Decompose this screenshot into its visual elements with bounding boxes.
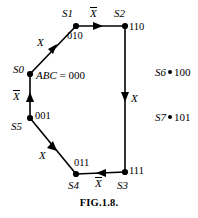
figure-caption: FIG.1.8. (0, 197, 198, 208)
edge-label-s3-s4-text: X (95, 177, 102, 189)
arrowhead-s3-s4 (96, 169, 106, 177)
unused-state-s6-dot (168, 70, 172, 74)
node-dot-s4 (73, 171, 79, 177)
arrowhead-s5-s4 (47, 141, 57, 151)
state-code-s5: 001 (35, 110, 51, 121)
assignment-value: 000 (69, 69, 86, 81)
state-code-s3: 111 (129, 165, 144, 176)
edge-label-s5-s0-text: X (13, 90, 20, 102)
edge-label-s5-s0: X (13, 90, 20, 102)
state-assignment-s0: ABC = 000 (36, 69, 85, 81)
state-code-s1: 010 (67, 30, 83, 41)
state-label-s3: S3 (117, 180, 128, 191)
state-code-s2: 110 (129, 21, 144, 32)
assignment-equals: = (57, 69, 69, 81)
state-label-s0: S0 (13, 64, 24, 75)
unused-state-s7: S7101 (155, 111, 191, 123)
node-dot-s1 (73, 23, 79, 29)
edge-label-s5-s4: X (39, 150, 46, 161)
state-transition-diagram: S0 S1 S2 S3 S4 S5 010 110 111 011 001 AB… (0, 0, 198, 218)
arrowhead-s2-s3 (121, 92, 129, 102)
edge-label-s1-s2: X (90, 7, 97, 19)
edge-label-s0-s1: X (37, 37, 44, 48)
edge-label-s1-s2-text: X (90, 7, 97, 19)
state-label-s1: S1 (62, 8, 73, 19)
node-dot-s0 (27, 71, 33, 77)
unused-state-s7-label: S7 (155, 111, 166, 123)
state-code-s4: 011 (74, 157, 89, 168)
node-dot-s2 (122, 23, 128, 29)
unused-state-s6-code: 100 (174, 66, 191, 78)
edge-label-s2-s3: X (131, 93, 138, 104)
unused-state-s7-dot (168, 115, 172, 119)
unused-state-s7-code: 101 (174, 111, 191, 123)
edge-label-s3-s4: X (95, 177, 102, 189)
state-label-s2: S2 (114, 8, 125, 19)
unused-state-s6: S6100 (155, 66, 191, 78)
arrowhead-s1-s2 (93, 22, 103, 30)
unused-state-s6-label: S6 (155, 66, 166, 78)
arrowhead-s0-s1 (48, 44, 57, 54)
node-dot-s3 (122, 169, 128, 175)
state-label-s4: S4 (68, 180, 79, 191)
state-label-s5: S5 (11, 121, 22, 132)
assignment-variables: ABC (36, 69, 57, 81)
arrowhead-s5-s0 (26, 92, 34, 102)
node-dot-s5 (27, 115, 33, 121)
